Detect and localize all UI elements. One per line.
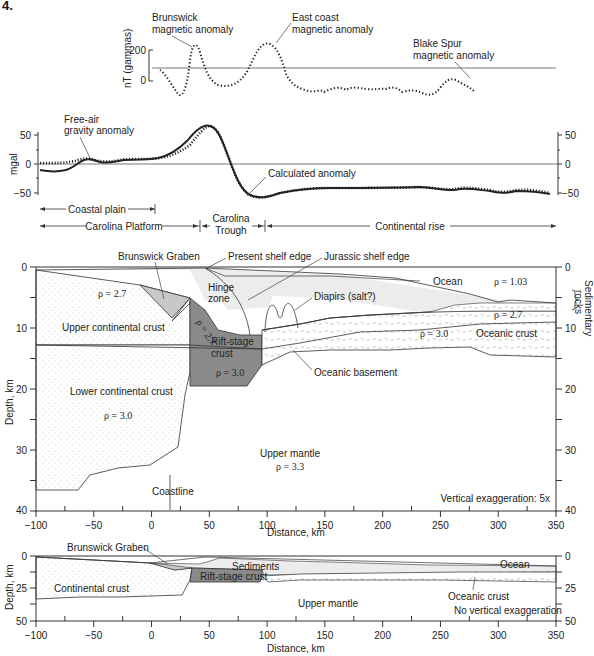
distance-axis-label: Distance, km [267, 527, 325, 538]
main-x-tick-label: 200 [374, 520, 391, 531]
ocean-label: Ocean [433, 276, 462, 287]
jurassic-shelf-edge-label: Jurassic shelf edge [324, 251, 410, 262]
true-distance-axis-label: Distance, km [267, 643, 325, 654]
oceanic-crust-label: Oceanic crust [476, 328, 537, 339]
true-depth-tick-right-0: 0 [565, 551, 571, 562]
depth-tick-20: 20 [16, 384, 28, 395]
true-upper-mantle-label: Upper mantle [298, 598, 358, 609]
main-x-tick-label: 50 [204, 520, 216, 531]
sedimentary-label-line2: rocks [573, 290, 584, 314]
true-x-tick-label: −100 [25, 630, 48, 641]
brunswick-magnetic-label-line2: magnetic anomaly [152, 24, 233, 35]
magnetic-tick-200: 200 [129, 45, 146, 56]
depth-tick-10: 10 [16, 323, 28, 334]
present-shelf-edge-label: Present shelf edge [228, 251, 312, 262]
true-depth-tick-0: 0 [21, 551, 27, 562]
calculated-anomaly-leader [247, 177, 266, 196]
true-depth-tick-right-25: 25 [565, 583, 577, 594]
magnetic-tick-0: 0 [140, 75, 146, 86]
carolina-trough-label-line2: Trough [215, 225, 246, 236]
hinge-zone-label-line1: Hinge [208, 282, 235, 293]
vertical-exaggeration-label: Vertical exaggeration: 5x [440, 493, 550, 504]
coastal-plain-label: Coastal plain [68, 204, 126, 215]
true-x-tick-label: 150 [317, 630, 334, 641]
hinge-zone-label-line2: zone [208, 293, 230, 304]
oceanic-basement-label: Oceanic basement [314, 367, 398, 378]
diapirs-label: Diapirs (salt?) [314, 291, 376, 302]
upper-mantle-label: Upper mantle [260, 448, 320, 459]
free-air-label-line2: gravity anomaly [64, 125, 134, 136]
gravity-left-tick-0: 0 [25, 159, 31, 170]
true-ocean-label: Ocean [500, 559, 529, 570]
magnetic-axis-label: nT (gammas) [122, 29, 133, 88]
depth-tick-right-40: 40 [565, 505, 577, 516]
gravity-left-tick-50: 50 [20, 130, 32, 141]
ocean-density-label: ρ = 1.03 [494, 276, 527, 287]
true-x-tick-label: −50 [85, 630, 102, 641]
brunswick-graben-label: Brunswick Graben [118, 251, 200, 262]
east-coast-magnetic-label-line2: magnetic anomaly [292, 24, 373, 35]
depth-tick-right-0: 0 [565, 262, 571, 273]
oceanic-density-label: ρ = 3.0 [420, 328, 448, 339]
free-air-leader [80, 137, 90, 158]
depth-tick-40: 40 [16, 505, 28, 516]
calculated-gravity-curve [40, 126, 550, 198]
geologic-figure: 4. nT (gammas) 200 0 Brunswick magnetic … [0, 0, 594, 656]
true-x-tick-label: 100 [259, 630, 276, 641]
true-x-tick-label: 350 [548, 630, 565, 641]
mantle-density-label: ρ = 3.3 [276, 461, 304, 472]
continental-rise-label: Continental rise [375, 221, 445, 232]
main-x-tick-label: 250 [432, 520, 449, 531]
carolina-trough-label-line1: Carolina [212, 213, 250, 224]
main-cross-section: 0 10 20 30 40 0 10 20 30 40 −100−5005010… [4, 251, 594, 538]
lower-continental-crust-label: Lower continental crust [70, 386, 173, 397]
gravity-axis-label: mgal [8, 153, 19, 175]
calculated-anomaly-label: Calculated anomaly [268, 168, 356, 179]
free-air-label-line1: Free-air [64, 114, 100, 125]
true-x-tick-label: 0 [149, 630, 155, 641]
blake-spur-magnetic-label-line1: Blake Spur [413, 38, 463, 49]
true-depth-axis-label: Depth, km [4, 564, 15, 610]
depth-tick-right-10: 10 [565, 323, 577, 334]
true-x-tick-label: 300 [490, 630, 507, 641]
main-x-tick-label: −50 [85, 520, 102, 531]
brunswick-magnetic-leader [172, 36, 192, 47]
magnetic-scale-bracket [149, 50, 153, 81]
coastline-label: Coastline [152, 486, 194, 497]
gravity-right-tick-50: 50 [565, 130, 577, 141]
true-depth-tick-right-50: 50 [565, 616, 577, 627]
carolina-platform-label: Carolina Platform [85, 221, 162, 232]
main-x-tick-label: 350 [548, 520, 565, 531]
upper-crust-density-label: ρ = 2.7 [98, 288, 126, 299]
upper-continental-crust-label: Upper continental crust [62, 322, 165, 333]
gravity-right-tick-0: 0 [565, 159, 571, 170]
true-x-tick-label: 50 [204, 630, 216, 641]
true-continental-crust-label: Continental crust [54, 583, 129, 594]
depth-axis-label: Depth, km [4, 379, 15, 425]
gravity-panel: mgal 50 0 −50 50 0 −50 Free-air gravity … [8, 114, 579, 199]
magnetic-panel: nT (gammas) 200 0 Brunswick magnetic ano… [122, 12, 556, 95]
sed-density-label: ρ = 2.7 [494, 309, 522, 320]
true-x-tick-label: 250 [432, 630, 449, 641]
province-bars: Coastal plain Carolina Platform Carolina… [40, 203, 556, 238]
depth-tick-right-20: 20 [565, 384, 577, 395]
depth-tick-0: 0 [21, 262, 27, 273]
blake-spur-magnetic-leader [455, 62, 470, 78]
main-x-tick-label: −100 [25, 520, 48, 531]
gravity-left-tick-neg50: −50 [14, 188, 31, 199]
brunswick-magnetic-label-line1: Brunswick [152, 12, 199, 23]
rift-density-lower-label: ρ = 3.0 [216, 367, 244, 378]
figure-number: 4. [2, 0, 13, 13]
main-x-tick-label: 0 [149, 520, 155, 531]
true-depth-tick-50: 50 [16, 616, 28, 627]
true-brunswick-graben-label: Brunswick Graben [67, 542, 149, 553]
true-x-tick-label: 200 [374, 630, 391, 641]
true-x-tick-labels: −100−50050100150200250300350 [25, 630, 565, 641]
lower-crust-density-label: ρ = 3.0 [104, 410, 132, 421]
depth-tick-30: 30 [16, 445, 28, 456]
true-oceanic-crust-label: Oceanic crust [448, 591, 509, 602]
true-no-exaggeration-label: No vertical exaggeration [454, 605, 562, 616]
gravity-right-tick-neg50: −50 [562, 188, 579, 199]
blake-spur-magnetic-label-line2: magnetic anomaly [413, 50, 494, 61]
east-coast-magnetic-leader [276, 23, 291, 43]
